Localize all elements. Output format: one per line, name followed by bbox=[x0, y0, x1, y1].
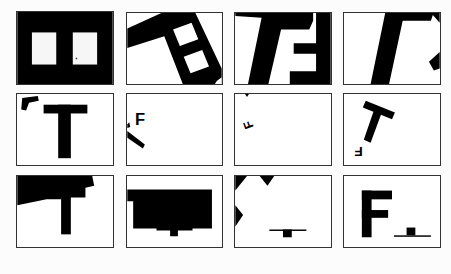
wedges-and-baseline-shape bbox=[235, 176, 331, 247]
slanted-bar-shape bbox=[344, 13, 440, 84]
panel-r2c1 bbox=[16, 93, 114, 166]
panel-r3c3 bbox=[234, 175, 332, 248]
panel-r2c4: F bbox=[343, 93, 441, 166]
panel-r3c4 bbox=[343, 175, 441, 248]
letter-f-shape: F bbox=[127, 94, 222, 165]
svg-text:F: F bbox=[241, 119, 257, 131]
panel-r2c2: F bbox=[126, 93, 223, 166]
rotated-letter-f-shape: F bbox=[235, 94, 331, 165]
letter-t-shape bbox=[17, 94, 113, 165]
two-windows-shape bbox=[17, 12, 113, 84]
letter-f-and-baseline-shape bbox=[344, 176, 440, 247]
panel-r3c1 bbox=[16, 175, 114, 248]
panel-r2c3: F bbox=[234, 93, 332, 166]
letter-t-top-heavy-shape bbox=[17, 176, 113, 247]
panel-r1c3 bbox=[234, 12, 332, 85]
rotated-frame-shape bbox=[127, 13, 222, 84]
black-block-shape bbox=[127, 176, 222, 247]
tilted-t-and-f-shape: F bbox=[344, 94, 440, 165]
panel-r3c2 bbox=[126, 175, 223, 248]
t-e-merged-shape bbox=[235, 13, 331, 84]
panel-r1c4 bbox=[343, 12, 441, 85]
panel-r1c1 bbox=[16, 11, 114, 85]
panel-r1c2 bbox=[126, 12, 223, 85]
svg-text:F: F bbox=[135, 110, 145, 129]
svg-text:F: F bbox=[354, 144, 362, 159]
